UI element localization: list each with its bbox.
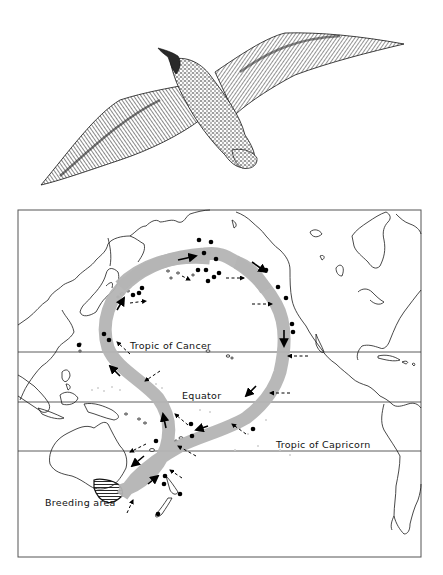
caribbean-cuba	[378, 355, 400, 361]
bird-head	[158, 48, 180, 74]
figure: Tropic of Cancer Equator Tropic of Capri…	[0, 0, 443, 575]
east-coast	[357, 290, 421, 360]
south-america	[382, 404, 421, 534]
migration-route-band	[105, 253, 284, 496]
label-tropic-of-capricorn: Tropic of Capricorn	[275, 439, 371, 450]
philippines	[62, 370, 70, 390]
australia	[49, 422, 126, 489]
sumatra-java	[38, 408, 64, 419]
migration-direction-arrows	[110, 256, 284, 484]
borneo	[60, 392, 78, 405]
label-tropic-of-cancer: Tropic of Cancer	[129, 340, 211, 351]
alaska-islands	[232, 220, 236, 228]
small-islands	[79, 270, 234, 452]
bird-illustration	[41, 33, 404, 185]
canada-arctic	[352, 212, 390, 268]
label-breeding-area: Breeding area	[45, 497, 116, 508]
label-equator: Equator	[182, 390, 221, 401]
bird-right-wing	[215, 33, 404, 115]
new-guinea	[84, 403, 118, 420]
migration-map: Tropic of Cancer Equator Tropic of Capri…	[18, 210, 421, 557]
bird-left-wing	[41, 85, 200, 185]
hudson-great-lakes	[358, 289, 384, 304]
korea-china	[20, 310, 74, 400]
new-zealand	[155, 476, 178, 517]
